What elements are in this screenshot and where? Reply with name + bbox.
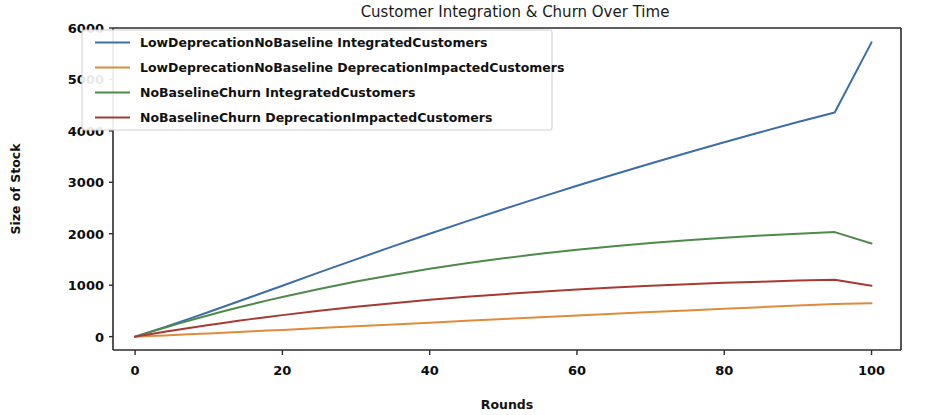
x-tick-label-2: 40 bbox=[421, 363, 439, 378]
x-axis-label: Rounds bbox=[481, 397, 533, 412]
legend-label-3[interactable]: NoBaselineChurn DeprecationImpactedCusto… bbox=[140, 110, 492, 125]
x-tick-label-3: 60 bbox=[568, 363, 586, 378]
y-tick-label-1: 1000 bbox=[68, 278, 104, 293]
chart-figure: Customer Integration & Churn Over Time 0… bbox=[0, 0, 929, 415]
y-tick-label-0: 0 bbox=[95, 330, 104, 345]
chart-title: Customer Integration & Churn Over Time bbox=[361, 3, 670, 21]
x-tick-label-5: 100 bbox=[858, 363, 885, 378]
x-tick-label-0: 0 bbox=[131, 363, 140, 378]
legend-label-0[interactable]: LowDeprecationNoBaseline IntegratedCusto… bbox=[140, 35, 488, 50]
chart-legend[interactable]: LowDeprecationNoBaseline IntegratedCusto… bbox=[82, 30, 564, 130]
y-tick-label-2: 2000 bbox=[68, 227, 104, 242]
y-tick-label-3: 3000 bbox=[68, 175, 104, 190]
legend-label-2[interactable]: NoBaselineChurn IntegratedCustomers bbox=[140, 85, 415, 100]
legend-label-1[interactable]: LowDeprecationNoBaseline DeprecationImpa… bbox=[140, 60, 564, 75]
x-tick-label-1: 20 bbox=[273, 363, 291, 378]
x-tick-label-4: 80 bbox=[715, 363, 733, 378]
y-axis-label: Size of Stock bbox=[8, 143, 23, 235]
